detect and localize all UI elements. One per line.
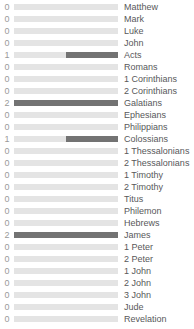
bar-track <box>14 172 118 178</box>
row-label: Revelation <box>124 313 167 325</box>
row-value: 0 <box>0 145 14 157</box>
bar-track-wrapper <box>14 292 124 298</box>
bar-track-wrapper <box>14 280 124 286</box>
table-row: 0Ephesians <box>0 109 194 121</box>
row-label: John <box>124 37 144 49</box>
row-value: 0 <box>0 61 14 73</box>
bar-track <box>14 268 118 274</box>
bar-fill <box>14 232 118 238</box>
bar-track <box>14 52 118 58</box>
row-value: 0 <box>0 37 14 49</box>
bar-track <box>14 64 118 70</box>
row-value: 0 <box>0 265 14 277</box>
bar-track <box>14 256 118 262</box>
row-value: 0 <box>0 193 14 205</box>
bar-track-wrapper <box>14 4 124 10</box>
bar-fill <box>66 136 118 142</box>
bar-track <box>14 40 118 46</box>
bar-track <box>14 184 118 190</box>
table-row: 0John <box>0 37 194 49</box>
row-value: 2 <box>0 97 14 109</box>
bar-track <box>14 292 118 298</box>
table-row: 1Acts <box>0 49 194 61</box>
table-row: 02 Corinthians <box>0 85 194 97</box>
row-label: Romans <box>124 61 158 73</box>
row-label: Mark <box>124 13 144 25</box>
bar-track-wrapper <box>14 124 124 130</box>
bar-track <box>14 4 118 10</box>
bar-track-wrapper <box>14 64 124 70</box>
table-row: 0Philemon <box>0 205 194 217</box>
bar-track-wrapper <box>14 40 124 46</box>
table-row: 0Revelation <box>0 313 194 325</box>
row-value: 0 <box>0 301 14 313</box>
bar-track-wrapper <box>14 256 124 262</box>
table-row: 0Philippians <box>0 121 194 133</box>
bar-track-wrapper <box>14 136 124 142</box>
bar-track-wrapper <box>14 88 124 94</box>
table-row: 0Titus <box>0 193 194 205</box>
bar-track-wrapper <box>14 196 124 202</box>
bar-track <box>14 160 118 166</box>
bar-track <box>14 280 118 286</box>
row-label: Hebrews <box>124 217 160 229</box>
bar-track-wrapper <box>14 160 124 166</box>
table-row: 01 Corinthians <box>0 73 194 85</box>
row-value: 0 <box>0 25 14 37</box>
row-label: Matthew <box>124 1 158 13</box>
row-value: 1 <box>0 133 14 145</box>
row-label: Titus <box>124 193 143 205</box>
row-value: 0 <box>0 1 14 13</box>
bar-track-wrapper <box>14 28 124 34</box>
bar-track-wrapper <box>14 208 124 214</box>
table-row: 01 Timothy <box>0 169 194 181</box>
row-value: 2 <box>0 229 14 241</box>
table-row: 03 John <box>0 289 194 301</box>
row-label: 2 John <box>124 277 151 289</box>
table-row: 01 Thessalonians <box>0 145 194 157</box>
table-row: 0Hebrews <box>0 217 194 229</box>
row-label: Philippians <box>124 121 168 133</box>
row-label: 1 Timothy <box>124 169 163 181</box>
row-label: James <box>124 229 151 241</box>
row-value: 1 <box>0 49 14 61</box>
bar-track-wrapper <box>14 220 124 226</box>
bar-list-chart: 0Matthew0Mark0Luke0John1Acts0Romans01 Co… <box>0 0 194 329</box>
bar-track-wrapper <box>14 172 124 178</box>
row-value: 0 <box>0 85 14 97</box>
bar-fill <box>14 100 118 106</box>
row-label: 1 Corinthians <box>124 73 177 85</box>
row-value: 0 <box>0 205 14 217</box>
table-row: 0Matthew <box>0 1 194 13</box>
table-row: 02 John <box>0 277 194 289</box>
bar-track <box>14 16 118 22</box>
bar-track-wrapper <box>14 244 124 250</box>
table-row: 1Colossians <box>0 133 194 145</box>
bar-track-wrapper <box>14 304 124 310</box>
bar-track-wrapper <box>14 16 124 22</box>
table-row: 2Galatians <box>0 97 194 109</box>
bar-track-wrapper <box>14 316 124 322</box>
bar-track <box>14 232 118 238</box>
row-label: Philemon <box>124 205 162 217</box>
row-label: 2 Peter <box>124 253 153 265</box>
row-value: 0 <box>0 241 14 253</box>
row-label: Luke <box>124 25 144 37</box>
bar-track-wrapper <box>14 232 124 238</box>
row-label: 2 Timothy <box>124 181 163 193</box>
row-value: 0 <box>0 13 14 25</box>
row-value: 0 <box>0 217 14 229</box>
row-label: 2 Thessalonians <box>124 157 189 169</box>
table-row: 0Luke <box>0 25 194 37</box>
row-label: Colossians <box>124 133 168 145</box>
row-label: Jude <box>124 301 144 313</box>
bar-track <box>14 316 118 322</box>
row-label: Acts <box>124 49 142 61</box>
row-value: 0 <box>0 253 14 265</box>
bar-track <box>14 88 118 94</box>
table-row: 0Romans <box>0 61 194 73</box>
bar-track <box>14 148 118 154</box>
bar-track-wrapper <box>14 76 124 82</box>
table-row: 02 Peter <box>0 253 194 265</box>
row-label: 2 Corinthians <box>124 85 177 97</box>
